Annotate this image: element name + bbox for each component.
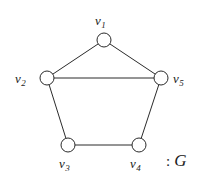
vertex-label-v1: v1 bbox=[95, 14, 105, 27]
edge-v4-v5 bbox=[139, 78, 161, 145]
vertex-v5 bbox=[154, 71, 168, 85]
caption-graph-name: G bbox=[174, 151, 186, 170]
vertex-label-v2: v2 bbox=[15, 72, 25, 85]
vertex-v2 bbox=[40, 71, 54, 85]
vertex-v1 bbox=[97, 33, 111, 47]
caption-separator: : bbox=[166, 153, 170, 169]
vertex-v3 bbox=[61, 138, 75, 152]
edge-group bbox=[47, 40, 161, 145]
graph-caption: :G bbox=[166, 152, 186, 169]
vertex-label-v4: v4 bbox=[130, 157, 140, 170]
edge-v2-v3 bbox=[47, 78, 68, 145]
vertex-label-v5: v5 bbox=[173, 72, 183, 85]
vertex-label-v3: v3 bbox=[59, 157, 69, 170]
vertex-v4 bbox=[132, 138, 146, 152]
edge-v1-v2 bbox=[47, 40, 104, 78]
edge-v1-v5 bbox=[104, 40, 161, 78]
vertex-group bbox=[40, 33, 168, 152]
